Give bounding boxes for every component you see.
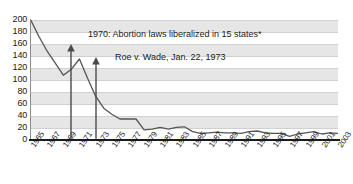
x-tick-label: 1993: [255, 130, 272, 149]
x-tick-label: 1975: [110, 130, 127, 149]
x-tick-label: 1995: [271, 130, 288, 149]
x-tick-label: 2003: [336, 130, 353, 149]
x-tick-label: 1987: [207, 130, 224, 149]
x-tick-label: 1999: [304, 130, 321, 149]
x-tick-label: 1997: [288, 130, 305, 149]
x-tick-label: 1965: [29, 130, 46, 149]
x-tick-label: 1979: [142, 130, 159, 149]
x-tick-label: 1967: [45, 130, 62, 149]
annotation-arrow-1970: [65, 44, 77, 140]
x-tick-label: 1985: [191, 130, 208, 149]
x-tick-label: 1981: [158, 130, 175, 149]
x-tick-label: 2001: [320, 130, 337, 149]
annotation-label-liberalized-laws: 1970: Abortion laws liberalized in 15 st…: [88, 29, 262, 39]
x-tick-label: 1991: [239, 130, 256, 149]
annotation-arrow-roe-v-wade: [90, 57, 102, 140]
annotation-label-roe-v-wade: Roe v. Wade, Jan. 22, 1973: [115, 52, 226, 62]
x-tick-label: 1983: [174, 130, 191, 149]
x-tick-label: 1989: [223, 130, 240, 149]
x-tick-label: 1977: [126, 130, 143, 149]
